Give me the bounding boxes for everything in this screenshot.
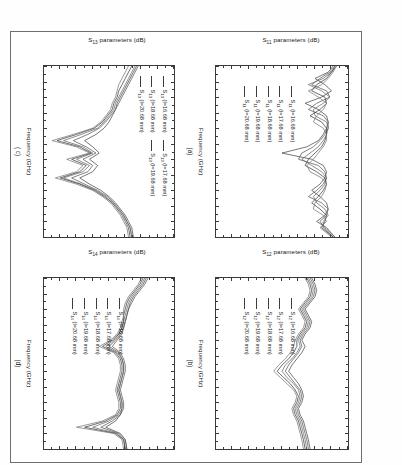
panel-c-xlabel: Frequency (GHz) [26,65,33,238]
legend-item: S11 (l=17.68 mm) [276,86,283,142]
legend-line-icon [279,86,280,97]
legend-line-icon [268,298,269,309]
x-tick-mark [44,237,47,238]
x-tick-mark [44,449,47,450]
panel-d-legend: S14 (l=16.68 mm)S14 (l=17.68 mm)S14 (l=1… [65,298,123,355]
legend-item: S12 (l=17.68 mm) [276,298,283,355]
panel-a-ylabel: S11 parameters (dB) [229,36,353,48]
legend-item: S11 (l=20.68 mm) [241,86,248,142]
panel-b-tag: (b) [187,277,194,450]
legend-item: S13 (l=20.68 mm) [136,76,143,133]
legend-item: S12 (l=18.68 mm) [264,298,271,355]
legend-label: S11 (l=18.68 mm) [264,100,271,143]
x-tick-mark [171,449,174,450]
legend-label: S11 (l=17.68 mm) [276,100,283,143]
legend-item: S14 (l=16.68 mm) [116,298,123,355]
legend-label: S11 (l=16.68 mm) [288,100,295,143]
panel-d-xlabel: Frequency (GHz) [26,277,33,450]
legend-label: S14 (l=19.68 mm) [81,312,88,355]
legend-line-icon [244,298,245,309]
legend-line-icon [96,298,97,309]
legend-label: S11 (l=19.68 mm) [253,100,260,143]
legend-label: S12 (l=19.68 mm) [253,312,260,355]
legend-label: S12 (l=20.68 mm) [241,312,248,355]
x-tick-mark [345,237,348,238]
panel-b: S12 parameters (dB) 0-10-20-30-40-50-60-… [185,250,357,460]
panel-a-legend: S11 (l=16.68 mm)S11 (l=17.68 mm)S11 (l=1… [237,86,295,142]
legend-label: S12 (l=18.68 mm) [264,312,271,355]
legend-label: S11 (l=20.68 mm) [241,100,248,143]
legend-label: S14 (l=17.68 mm) [104,312,111,355]
legend-column-2: S13 (l=17.68 mm)S13 (l=19.68 mm) [132,140,167,197]
panel-b-ylabel: S12 parameters (dB) [229,248,353,260]
legend-line-icon [151,140,152,151]
legend-item: S13 (l=17.68 mm) [160,140,167,197]
legend-item: S11 (l=18.68 mm) [264,86,271,142]
legend-item: S12 (l=19.68 mm) [253,298,260,355]
legend-label: S14 (l=20.68 mm) [69,312,76,355]
legend-label: S12 (l=16.68 mm) [288,312,295,355]
legend-item: S14 (l=17.68 mm) [104,298,111,355]
legend-item: S11 (l=19.68 mm) [253,86,260,142]
x-tick-mark [171,237,174,238]
panel-c-legend: S13 (l=16.68 mm)S13 (l=18.68 mm)S13 (l=2… [132,76,167,196]
curve-s13-l-18-68-mm- [64,66,136,237]
panel-c-tag: ( c) [15,65,22,238]
legend-label: S14 (l=16.68 mm) [116,312,123,355]
legend-item: S14 (l=18.68 mm) [92,298,99,355]
legend-line-icon [291,86,292,97]
legend-label: S13 (l=19.68 mm) [148,153,155,196]
legend-item: S14 (l=20.68 mm) [69,298,76,355]
panel-c-ylabel: S13 parameters (dB) [55,36,179,48]
legend-label: S13 (l=20.68 mm) [136,90,143,133]
panel-b-legend: S12 (l=16.68 mm)S12 (l=17.68 mm)S12 (l=1… [237,298,295,355]
legend-column-1: S13 (l=16.68 mm)S13 (l=18.68 mm)S13 (l=2… [132,76,167,133]
panel-b-xlabel: Frequency (GHz) [198,277,205,450]
legend-label: S14 (l=18.68 mm) [92,312,99,355]
legend-line-icon [163,140,164,151]
legend-label: S13 (l=16.68 mm) [160,90,167,133]
legend-item: S12 (l=16.68 mm) [288,298,295,355]
legend-line-icon [107,298,108,309]
panel-d: S14 parameters (dB) 0-10-20-30-40-50-60-… [13,250,183,460]
scanned-page: S11 parameters (dB) 0-10-20-30-40-50-60-… [0,0,402,465]
legend-line-icon [140,76,141,87]
x-tick-mark [216,237,219,238]
legend-line-icon [268,86,269,97]
legend-line-icon [256,298,257,309]
legend-line-icon [84,298,85,309]
panel-a-xlabel: Frequency (GHz) [198,65,205,238]
legend-item: S11 (l=16.68 mm) [288,86,295,142]
legend-item: S13 (l=19.68 mm) [148,140,155,197]
legend-item: S13 (l=16.68 mm) [160,76,167,133]
legend-label: S13 (l=17.68 mm) [160,153,167,196]
legend-line-icon [244,86,245,97]
legend-item: S13 (l=18.68 mm) [148,76,155,133]
panel-c: S13 parameters (dB) 0-10-20-30-40-50-60-… [13,38,183,248]
panel-a-tag: (a) [187,65,194,238]
figure-frame: S11 parameters (dB) 0-10-20-30-40-50-60-… [10,31,362,463]
curve-s13-l-17-68-mm- [72,66,139,237]
legend-line-icon [291,298,292,309]
legend-line-icon [256,86,257,97]
legend-line-icon [151,76,152,87]
legend-label: S12 (l=17.68 mm) [276,312,283,355]
legend-line-icon [279,298,280,309]
legend-item: S14 (l=19.68 mm) [81,298,88,355]
legend-line-icon [72,298,73,309]
legend-label: S13 (l=18.68 mm) [148,90,155,133]
legend-item: S12 (l=20.68 mm) [241,298,248,355]
curve-s11-l-20-68-mm- [307,66,337,237]
panel-d-tag: (d) [15,277,22,450]
legend-line-icon [163,76,164,87]
x-tick-mark [345,449,348,450]
legend-line-icon [119,298,120,309]
panel-d-ylabel: S14 parameters (dB) [55,248,179,260]
x-tick-mark [216,449,219,450]
panel-a: S11 parameters (dB) 0-10-20-30-40-50-60-… [185,38,357,248]
